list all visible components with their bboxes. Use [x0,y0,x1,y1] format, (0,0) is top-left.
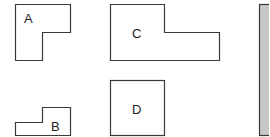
shape-c: C [111,5,220,61]
shape-a-label: A [24,11,33,26]
shapes-diagram: A B C D [0,0,269,137]
shape-b: B [16,108,71,136]
shape-b-label: B [51,119,60,134]
shape-a: A [16,5,71,61]
shape-d: D [111,81,165,136]
shape-d-label: D [132,102,141,117]
shape-c-label: C [132,26,141,41]
shaded-bar [260,5,270,136]
